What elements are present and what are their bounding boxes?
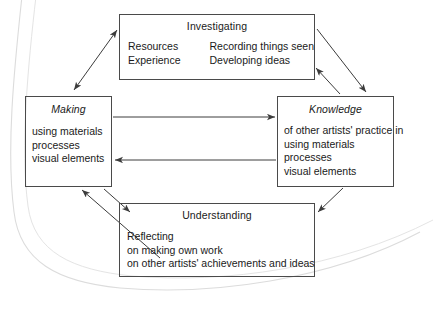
box-investigating-title: Investigating <box>120 20 314 32</box>
box-investigating-column-left: Resources Experience <box>128 40 210 67</box>
box-knowledge: Knowledge of other artists' practice in … <box>277 96 394 187</box>
box-understanding-line: Reflecting <box>127 230 314 244</box>
box-investigating-line: Resources <box>128 40 210 54</box>
box-making-line: visual elements <box>32 152 111 166</box>
box-knowledge-line: processes <box>284 151 393 165</box>
arrow-knowledge-understanding <box>318 188 343 212</box>
box-investigating-line: Developing ideas <box>210 54 314 68</box>
box-investigating-columns: Resources Experience Recording things se… <box>120 40 314 67</box>
box-making-title: Making <box>26 103 111 115</box>
box-knowledge-title: Knowledge <box>278 103 393 115</box>
box-knowledge-line: of other artists' practice in <box>284 124 393 138</box>
box-making-line: using materials <box>32 125 111 139</box>
box-investigating-column-right: Recording things seen Developing ideas <box>210 40 314 67</box>
box-understanding-line: on other artists' achievements and ideas <box>127 257 314 271</box>
diagram-page: Investigating Resources Experience Recor… <box>0 0 433 311</box>
box-understanding: Understanding Reflecting on making own w… <box>119 203 315 277</box>
box-making: Making using materials processes visual … <box>25 96 112 187</box>
box-making-lines: using materials processes visual element… <box>26 125 111 166</box>
box-understanding-title: Understanding <box>120 209 314 221</box>
arrow-investigating-making <box>74 30 117 90</box>
arrow-knowledge-investigating <box>316 68 340 94</box>
box-investigating-line: Recording things seen <box>210 40 314 54</box>
box-knowledge-line: visual elements <box>284 165 393 179</box>
box-knowledge-lines: of other artists' practice in using mate… <box>278 124 393 178</box>
box-knowledge-line: using materials <box>284 138 393 152</box>
box-making-line: processes <box>32 139 111 153</box>
box-understanding-lines: Reflecting on making own work on other a… <box>120 230 314 271</box>
box-investigating-line: Experience <box>128 54 210 68</box>
arrow-investigating-knowledge <box>317 29 366 92</box>
box-investigating: Investigating Resources Experience Recor… <box>119 14 315 80</box>
box-understanding-line: on making own work <box>127 244 314 258</box>
